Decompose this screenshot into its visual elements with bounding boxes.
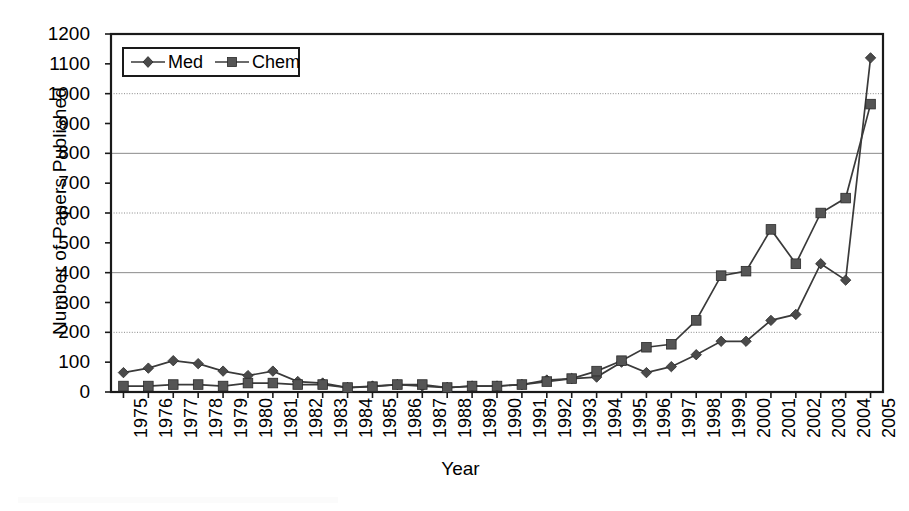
x-tick-label: 1976 — [157, 398, 175, 454]
x-tick-label: 1983 — [332, 398, 350, 454]
x-tick-label: 1979 — [232, 398, 250, 454]
series-chem — [119, 99, 876, 392]
data-point-med — [865, 53, 875, 63]
x-tick-label: 1993 — [581, 398, 599, 454]
x-tick-label: 1998 — [705, 398, 723, 454]
x-tick-label: 1978 — [207, 398, 225, 454]
x-tick-label: 1990 — [506, 398, 524, 454]
x-tick-label: 2004 — [855, 398, 873, 454]
y-tick-label: 700 — [12, 173, 90, 192]
data-point-chem — [119, 381, 129, 391]
x-tick-label: 1994 — [606, 398, 624, 454]
data-point-chem — [667, 339, 677, 349]
data-point-med — [691, 350, 701, 360]
x-tick-label: 1982 — [307, 398, 325, 454]
data-point-chem — [293, 380, 303, 390]
x-tick-label: 1995 — [631, 398, 649, 454]
data-point-med — [193, 358, 203, 368]
data-point-chem — [193, 380, 203, 390]
data-point-med — [840, 275, 850, 285]
y-tick-label: 900 — [12, 114, 90, 133]
legend: Med Chem — [122, 47, 300, 77]
x-tick-label: 1975 — [132, 398, 150, 454]
x-tick-label: 1984 — [357, 398, 375, 454]
data-point-chem — [368, 382, 378, 392]
x-tick-label: 1999 — [730, 398, 748, 454]
x-axis-title: Year — [0, 458, 909, 480]
x-tick-label: 1989 — [481, 398, 499, 454]
data-point-chem — [716, 271, 726, 281]
data-point-chem — [766, 225, 776, 235]
x-tick-label: 1987 — [431, 398, 449, 454]
legend-label-med: Med — [168, 52, 203, 73]
legend-key-chem-square-icon — [214, 52, 250, 72]
data-point-chem — [816, 208, 826, 218]
data-point-med — [268, 366, 278, 376]
legend-item-med: Med — [130, 49, 203, 75]
x-tick-label: 2000 — [755, 398, 773, 454]
y-tick-label: 1100 — [12, 54, 90, 73]
series-med — [118, 53, 875, 393]
x-tick-label: 1991 — [531, 398, 549, 454]
x-tick-label: 2002 — [805, 398, 823, 454]
series-line-med — [123, 58, 870, 388]
data-point-chem — [492, 381, 502, 391]
y-tick-label: 300 — [12, 293, 90, 312]
x-tick-label: 1997 — [680, 398, 698, 454]
x-tick-label: 1996 — [655, 398, 673, 454]
data-point-med — [168, 355, 178, 365]
data-series — [118, 53, 875, 393]
data-point-chem — [592, 366, 602, 376]
data-point-chem — [318, 380, 328, 390]
y-tick-label: 800 — [12, 143, 90, 162]
data-point-chem — [442, 383, 452, 393]
y-tick-label: 1200 — [12, 24, 90, 43]
axis-ticks — [105, 34, 871, 398]
data-point-chem — [243, 378, 253, 388]
data-point-med — [641, 367, 651, 377]
data-point-med — [716, 336, 726, 346]
data-point-med — [666, 361, 676, 371]
legend-key-med-diamond-icon — [130, 52, 166, 72]
y-tick-label: 600 — [12, 203, 90, 222]
data-point-chem — [417, 380, 427, 390]
chart-figure: Number of Papers Published Year 01002003… — [0, 0, 909, 511]
legend-item-chem: Chem — [214, 49, 300, 75]
y-tick-label: 1000 — [12, 84, 90, 103]
data-point-chem — [268, 378, 278, 388]
data-point-chem — [841, 193, 851, 203]
data-point-chem — [866, 99, 876, 109]
data-point-chem — [467, 381, 477, 391]
data-point-med — [118, 367, 128, 377]
data-point-chem — [343, 383, 353, 393]
data-point-chem — [542, 377, 552, 387]
x-tick-label: 2001 — [780, 398, 798, 454]
y-tick-label: 400 — [12, 263, 90, 282]
data-point-chem — [567, 374, 577, 384]
data-point-med — [218, 366, 228, 376]
data-point-chem — [642, 342, 652, 352]
x-tick-label: 1980 — [257, 398, 275, 454]
data-point-chem — [617, 356, 627, 366]
series-line-chem — [123, 104, 870, 387]
x-tick-label: 2005 — [880, 398, 898, 454]
gridlines — [111, 94, 883, 333]
data-point-chem — [517, 380, 527, 390]
x-tick-label: 1977 — [182, 398, 200, 454]
data-point-chem — [791, 259, 801, 269]
data-point-chem — [168, 380, 178, 390]
scan-artifact — [18, 497, 338, 503]
data-point-chem — [393, 380, 403, 390]
x-tick-label: 1981 — [282, 398, 300, 454]
legend-label-chem: Chem — [252, 52, 300, 73]
y-tick-label: 100 — [12, 352, 90, 371]
data-point-med — [791, 309, 801, 319]
x-tick-label: 1988 — [456, 398, 474, 454]
y-tick-label: 500 — [12, 233, 90, 252]
x-tick-label: 1986 — [406, 398, 424, 454]
data-point-chem — [218, 381, 228, 391]
x-tick-label: 2003 — [830, 398, 848, 454]
data-point-chem — [144, 381, 154, 391]
y-tick-label: 0 — [12, 382, 90, 401]
y-tick-label: 200 — [12, 322, 90, 341]
